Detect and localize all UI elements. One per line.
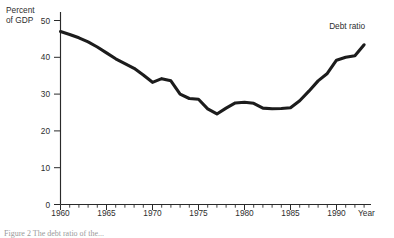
- debt-ratio-line-chart: Percent of GDP 0 10 20 30 40 50 1960 196…: [0, 0, 394, 238]
- y-axis-tick-labels: 0 10 20 30 40 50: [41, 16, 51, 210]
- x-axis-label: Year: [358, 208, 375, 218]
- x-tick-label-1990: 1990: [327, 208, 346, 218]
- y-tick-label-0: 0: [45, 200, 50, 210]
- y-axis-label-line1: Percent: [6, 5, 35, 15]
- y-tick-label-30: 30: [41, 89, 51, 99]
- x-tick-label-1975: 1975: [189, 208, 208, 218]
- debt-ratio-line-series: [61, 32, 365, 114]
- x-tick-label-1985: 1985: [281, 208, 300, 218]
- y-axis-label-line2: of GDP: [6, 15, 34, 25]
- figure-caption: Figure 2 The debt ratio of the...: [4, 230, 104, 238]
- y-axis-ticks: [54, 21, 61, 205]
- y-tick-label-20: 20: [41, 126, 51, 136]
- y-tick-label-50: 50: [41, 16, 51, 26]
- series-inline-label: Debt ratio: [329, 21, 365, 31]
- x-tick-label-1970: 1970: [143, 208, 162, 218]
- y-tick-label-40: 40: [41, 52, 51, 62]
- x-tick-label-1960: 1960: [51, 208, 70, 218]
- x-tick-label-1965: 1965: [97, 208, 116, 218]
- x-tick-label-1980: 1980: [235, 208, 254, 218]
- y-tick-label-10: 10: [41, 163, 51, 173]
- x-axis-tick-labels: 1960 1965 1970 1975 1980 1985 1990: [51, 208, 346, 218]
- figure-caption-clip: Figure 2 The debt ratio of the...: [0, 230, 394, 238]
- figure-container: Percent of GDP 0 10 20 30 40 50 1960 196…: [0, 0, 394, 238]
